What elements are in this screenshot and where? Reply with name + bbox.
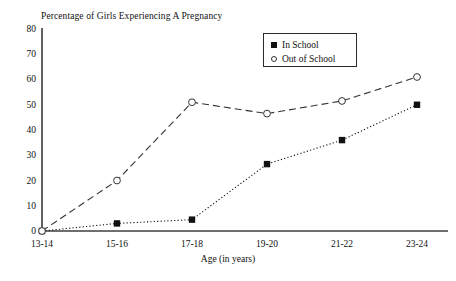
data-point-marker-square bbox=[264, 161, 270, 167]
filled-square-icon bbox=[271, 42, 277, 48]
data-point-marker-circle bbox=[339, 98, 346, 105]
legend-label: Out of School bbox=[282, 54, 335, 64]
legend-item-in-school: In School bbox=[271, 38, 319, 51]
data-point-marker-circle bbox=[414, 74, 421, 81]
chart-container: Percentage of Girls Experiencing A Pregn… bbox=[0, 0, 456, 281]
data-point-marker-square bbox=[114, 220, 120, 226]
plot-area bbox=[0, 0, 456, 281]
legend-label: In School bbox=[282, 40, 319, 50]
data-point-marker-square bbox=[189, 216, 195, 222]
legend-item-out-of-school: Out of School bbox=[271, 52, 335, 65]
data-point-marker-circle bbox=[189, 99, 196, 106]
open-circle-icon bbox=[271, 56, 277, 62]
data-point-marker-square bbox=[414, 102, 420, 108]
series-line bbox=[42, 105, 417, 231]
series-line bbox=[42, 77, 417, 231]
data-point-marker-circle bbox=[264, 110, 271, 117]
legend: In School Out of School bbox=[263, 33, 357, 67]
data-point-marker-circle bbox=[114, 177, 121, 184]
data-point-marker-circle bbox=[39, 228, 46, 235]
axis-lines bbox=[42, 28, 448, 231]
data-point-marker-square bbox=[339, 137, 345, 143]
series-layer bbox=[39, 74, 421, 235]
